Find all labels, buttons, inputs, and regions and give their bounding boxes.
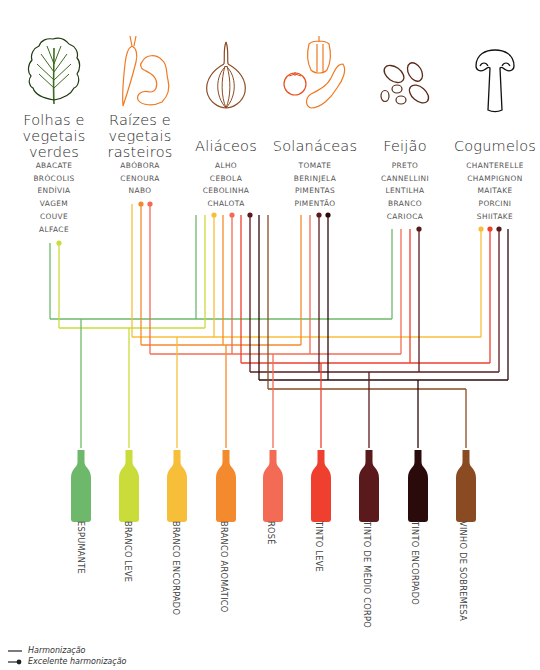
wine-label-tinto-encorpado: TINTO ENCORPADO — [410, 521, 420, 605]
excellent-dot-icon — [211, 212, 216, 217]
legend-pairing-label: Harmonização — [28, 646, 85, 655]
legend: Harmonização Excelente harmonização — [8, 645, 126, 667]
wine-bottle-icon — [359, 450, 379, 522]
line-icon — [8, 648, 22, 654]
excellent-dot-icon — [478, 226, 483, 231]
wine-label-rose: ROSÉ — [266, 521, 276, 545]
wine-bottle-icon — [167, 450, 187, 522]
wine-label-branco-aromatico: BRANCO AROMÁTICO — [219, 521, 229, 613]
wine-bottle-icon — [311, 450, 331, 522]
excellent-dot-icon — [487, 226, 492, 231]
wine-label-branco-leve: BRANCO LEVE — [123, 521, 133, 582]
excellent-dot-icon — [229, 212, 234, 217]
wine-bottle-icon — [456, 450, 476, 522]
wine-label-tinto-leve: TINTO LEVE — [314, 521, 324, 572]
excellent-dot-icon — [147, 201, 152, 206]
wine-bottle-icon — [408, 450, 428, 522]
wine-bottle-icon — [119, 450, 139, 522]
wine-bottle-icon — [263, 450, 283, 522]
excellent-dot-icon — [138, 201, 143, 206]
excellent-dot-icon — [416, 226, 421, 231]
line-dot-icon — [8, 659, 22, 665]
wine-label-vinho-sobremesa: VINHO DE SOBREMESA — [458, 521, 468, 621]
legend-pairing: Harmonização — [8, 645, 126, 656]
legend-excellent-label: Excelente harmonização — [28, 657, 126, 666]
excellent-dot-icon — [325, 212, 330, 217]
wine-bottle-icon — [71, 450, 91, 522]
wine-label-branco-encorpado: BRANCO ENCORPADO — [171, 521, 181, 615]
wine-label-espumante: ESPUMANTE — [76, 521, 86, 574]
wine-label-tinto-medio-corpo: TINTO DE MÉDIO CORPO — [362, 521, 372, 628]
excellent-dot-icon — [316, 212, 321, 217]
legend-excellent: Excelente harmonização — [8, 656, 126, 667]
excellent-dot-icon — [247, 212, 252, 217]
wine-bottle-icon — [216, 450, 236, 522]
excellent-dot-icon — [56, 240, 61, 245]
excellent-dot-icon — [496, 226, 501, 231]
